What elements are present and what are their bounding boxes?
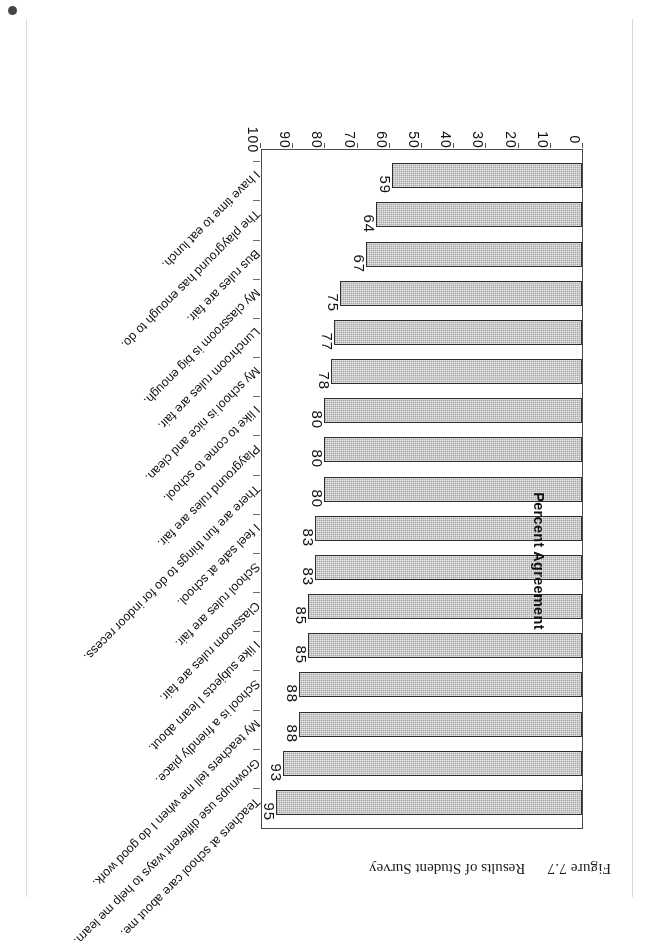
value-axis-tick-label: 0	[567, 136, 583, 145]
value-axis-tick-label: 30	[470, 131, 486, 149]
value-axis-tick-label: 80	[309, 131, 325, 149]
category-axis-tick	[253, 279, 260, 280]
category-axis-tick	[253, 710, 260, 711]
bar-value-label: 88	[284, 724, 301, 743]
value-axis-tick-label: 50	[406, 131, 422, 149]
bar-value-label: 95	[262, 802, 279, 821]
bar-value-label: 83	[300, 567, 317, 586]
bar-row: 78	[262, 358, 582, 385]
bar-value-label: 78	[316, 372, 333, 391]
category-axis-tick	[253, 670, 260, 671]
bar	[334, 320, 582, 345]
bar-value-label: 80	[310, 411, 327, 430]
bar	[299, 672, 582, 697]
value-axis-tick-label: 10	[535, 131, 551, 149]
bar-value-label: 80	[310, 489, 327, 508]
category-axis-tick	[253, 514, 260, 515]
bar-row: 88	[262, 711, 582, 738]
bar-row: 77	[262, 319, 582, 346]
bar-row: 93	[262, 750, 582, 777]
bar-row: 64	[262, 201, 582, 228]
bar-value-label: 85	[294, 646, 311, 665]
bar	[324, 437, 582, 462]
bar	[331, 359, 582, 384]
bar-value-label: 93	[268, 763, 285, 782]
scan-artifact-speck	[8, 6, 17, 15]
category-axis-tick	[253, 749, 260, 750]
category-axis-label: Grownups use different ways to help me l…	[71, 757, 263, 945]
category-axis-tick	[253, 318, 260, 319]
bar-row: 80	[262, 397, 582, 424]
bar-row: 75	[262, 280, 582, 307]
bar-value-label: 85	[294, 607, 311, 626]
category-axis-labels: Teachers at school care about me.Grownup…	[23, 139, 253, 829]
bar-row: 80	[262, 436, 582, 463]
bar	[324, 398, 582, 423]
bar-value-label: 67	[352, 254, 369, 273]
bar	[341, 281, 583, 306]
category-axis-label: There are fun things to do for indoor re…	[81, 483, 263, 665]
bar-value-label: 83	[300, 528, 317, 547]
category-axis-tick	[253, 788, 260, 789]
figure-number: Figure 7.7	[547, 861, 611, 877]
category-axis-tick	[253, 553, 260, 554]
category-axis-tick	[253, 435, 260, 436]
category-axis-tick	[253, 475, 260, 476]
category-axis-tick	[253, 396, 260, 397]
category-axis-tick	[253, 240, 260, 241]
figure-title: Results of Student Survey	[369, 861, 525, 877]
axis-title: Percent Agreement	[531, 461, 547, 661]
category-axis-tick	[253, 161, 260, 162]
bar	[366, 242, 582, 267]
value-axis-tick-label: 70	[342, 131, 358, 149]
value-axis-tick-label: 60	[374, 131, 390, 149]
bar-row: 59	[262, 162, 582, 189]
value-axis: 0102030405060708090100	[261, 104, 583, 148]
bar	[376, 202, 582, 227]
value-axis-tick-label: 90	[277, 131, 293, 149]
bar	[392, 163, 582, 188]
category-axis-tick	[253, 631, 260, 632]
bar	[276, 790, 582, 815]
bar-row: 67	[262, 241, 582, 268]
bar	[299, 712, 582, 737]
bar-chart: 9593888885858383808080787775676459 01020…	[43, 29, 583, 829]
bar-value-label: 59	[378, 176, 395, 195]
figure-caption: Figure 7.7Results of Student Survey	[369, 860, 611, 877]
bar-value-label: 64	[361, 215, 378, 234]
bar-value-label: 77	[320, 332, 337, 351]
category-axis-tick	[253, 592, 260, 593]
bar-value-label: 80	[310, 450, 327, 469]
page-edge-left	[632, 19, 633, 897]
category-axis-label: My teachers tell me when I do good work.	[90, 718, 263, 891]
category-axis-tick	[253, 200, 260, 201]
category-axis-tick	[253, 357, 260, 358]
bar-value-label: 75	[326, 293, 343, 312]
bar-row: 88	[262, 671, 582, 698]
bar	[283, 751, 582, 776]
value-axis-tick-label: 40	[438, 131, 454, 149]
bar-value-label: 88	[284, 685, 301, 704]
value-axis-tick-label: 20	[503, 131, 519, 149]
bar-row: 95	[262, 789, 582, 816]
